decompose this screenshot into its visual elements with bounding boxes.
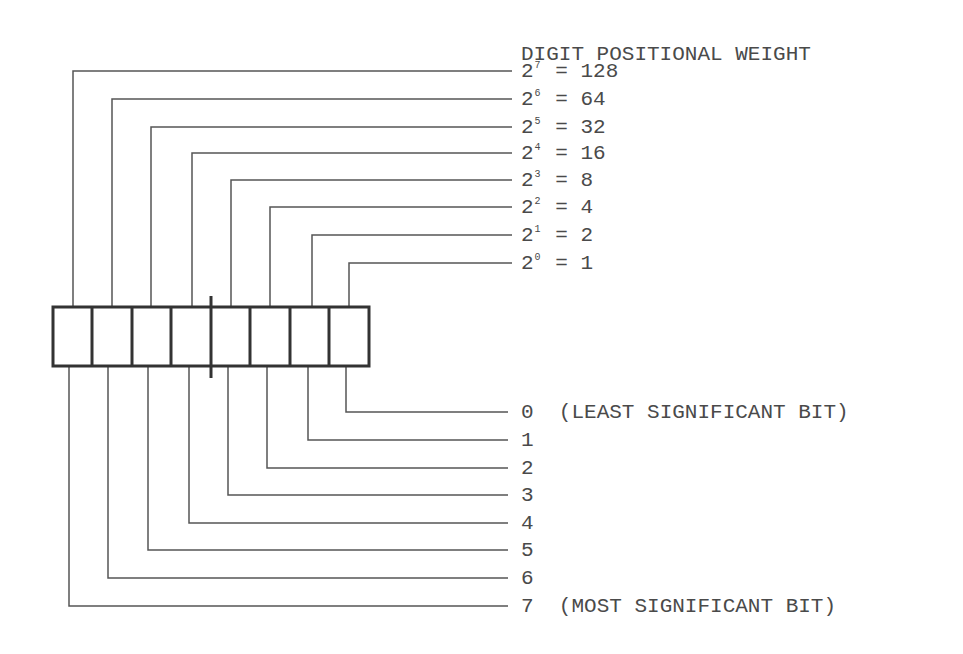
bit-register-diagram — [0, 0, 963, 654]
bit-index-leader-lines — [69, 366, 508, 606]
weight-label: 27 = 128 — [521, 60, 618, 87]
weight-label: 21 = 2 — [521, 224, 593, 251]
bit-index-label: 0 (LEAST SIGNIFICANT BIT) — [521, 401, 849, 425]
bit-index-label: 2 — [521, 457, 534, 481]
weight-label: 22 = 4 — [521, 196, 593, 223]
bit-index-label: 7 (MOST SIGNIFICANT BIT) — [521, 595, 836, 619]
register-box — [53, 296, 369, 378]
weight-label: 23 = 8 — [521, 169, 593, 196]
bit-index-label: 6 — [521, 567, 534, 591]
weight-label: 26 = 64 — [521, 88, 606, 115]
weight-leader-lines — [73, 71, 512, 306]
weight-label: 20 = 1 — [521, 252, 593, 279]
weight-label: 25 = 32 — [521, 116, 606, 143]
bit-index-label: 3 — [521, 484, 534, 508]
weight-label: 24 = 16 — [521, 142, 606, 169]
bit-index-label: 5 — [521, 539, 534, 563]
msb-note: (MOST SIGNIFICANT BIT) — [559, 595, 836, 618]
bit-index-label: 1 — [521, 429, 534, 453]
bit-index-label: 4 — [521, 512, 534, 536]
lsb-note: (LEAST SIGNIFICANT BIT) — [559, 401, 849, 424]
